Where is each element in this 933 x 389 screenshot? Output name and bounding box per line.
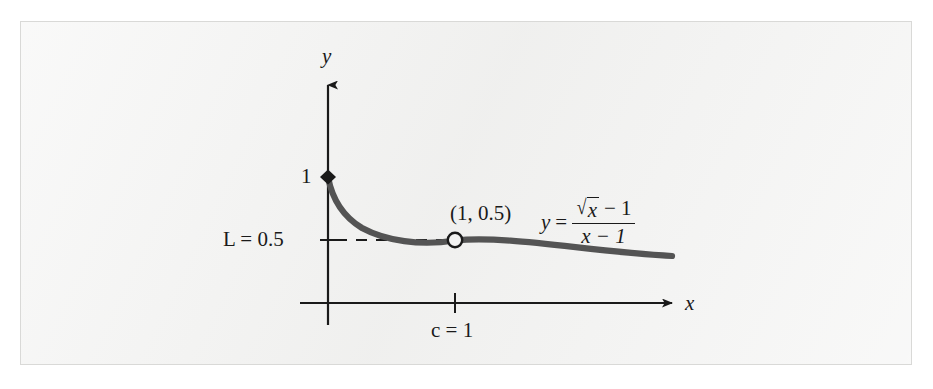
radical-sign-glyph: √ [577, 197, 587, 222]
y-tick-label-one: 1 [301, 166, 312, 187]
filled-point-marker [320, 170, 336, 185]
limit-value-label: L = 0.5 [223, 229, 284, 250]
equation-numerator: √ x − 1 [572, 197, 634, 223]
point-coordinate-label: (1, 0.5) [450, 203, 511, 224]
equation-denominator: x − 1 [578, 224, 629, 248]
open-point-marker [448, 233, 462, 247]
equation-fraction: √ x − 1 x − 1 [572, 197, 634, 248]
figure-screenshot: y x 1 L = 0.5 (1, 0.5) c = 1 y = √ x − 1… [0, 0, 933, 389]
numerator-tail: − 1 [599, 197, 632, 220]
x-axis-label: x [685, 293, 694, 314]
x-tick-label-c: c = 1 [431, 320, 473, 341]
y-axis-label: y [322, 46, 331, 67]
radicand: x [587, 197, 599, 222]
curve-equation: y = √ x − 1 x − 1 [541, 197, 635, 248]
equation-equals-sign: = [555, 210, 567, 235]
equation-lhs: y [541, 210, 550, 235]
square-root-icon: √ x [575, 197, 599, 222]
